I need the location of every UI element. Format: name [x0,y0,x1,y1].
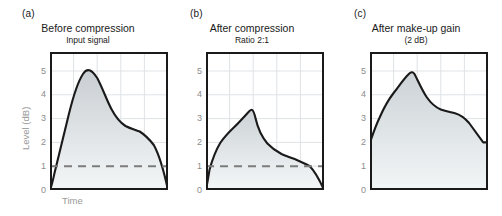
panel-b-plot [206,52,324,190]
panel-a-svg [50,52,168,190]
panel-a-label: (a) [22,8,35,19]
panel-b-title: After compression [172,22,332,35]
panel-b-subtitle: Ratio 2:1 [172,35,332,46]
panel-c: (c) After make-up gain (2 dB) [332,0,502,216]
panel-c-label: (c) [354,8,366,19]
panel-a-subtitle: Input signal [4,35,172,46]
panel-a: (a) Before compression Input signal Leve… [0,0,180,216]
panel-c-titles: After make-up gain (2 dB) [334,22,498,46]
ytick-b-2: 2 [188,137,202,147]
ytick-a-3: 3 [32,113,46,123]
panel-a-title: Before compression [4,22,172,35]
ytick-c-4: 4 [352,89,366,99]
panel-a-titles: Before compression Input signal [4,22,172,46]
ytick-c-0: 0 [352,185,366,195]
ytick-a-4: 4 [32,89,46,99]
panel-b-titles: After compression Ratio 2:1 [172,22,332,46]
ytick-b-5: 5 [188,66,202,76]
ytick-b-0: 0 [188,185,202,195]
ytick-b-1: 1 [188,161,202,171]
ytick-c-5: 5 [352,66,366,76]
ytick-c-1: 1 [352,161,366,171]
panel-c-title: After make-up gain [334,22,498,35]
panel-a-plot [50,52,168,190]
panel-c-plot [370,52,488,190]
ytick-b-4: 4 [188,89,202,99]
panel-c-svg [370,52,488,190]
ytick-c-2: 2 [352,137,366,147]
ytick-b-3: 3 [188,113,202,123]
ytick-a-2: 2 [32,137,46,147]
x-axis-label: Time [62,195,83,206]
ytick-c-3: 3 [352,113,366,123]
ytick-a-1: 1 [32,161,46,171]
panel-b-svg [206,52,324,190]
panel-b-label: (b) [190,8,203,19]
ytick-a-5: 5 [32,66,46,76]
y-axis-label: Level (dB) [20,107,31,150]
compression-figure: (a) Before compression Input signal Leve… [0,0,502,216]
ytick-a-0: 0 [32,185,46,195]
panel-b: (b) After compression Ratio 2:1 [170,0,335,216]
panel-c-subtitle: (2 dB) [334,35,498,46]
